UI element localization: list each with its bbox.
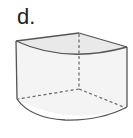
- cylinder-sector-diagram: [0, 0, 133, 138]
